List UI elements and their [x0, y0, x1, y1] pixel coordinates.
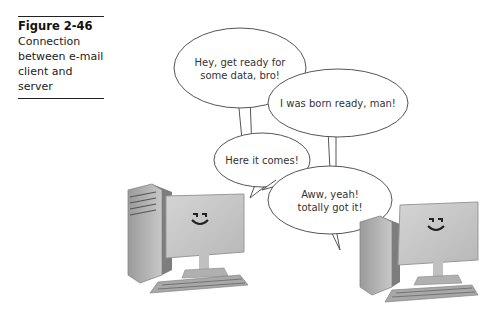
bubble-3-text: Here it comes! [202, 154, 322, 167]
bubble-4-text: Aww, yeah! totally got it! [270, 188, 390, 214]
bubble-2-text: I was born ready, man! [278, 97, 398, 110]
bubble-2-line-1: I was born ready, man! [278, 97, 398, 110]
bubble-4-line-2: totally got it! [270, 201, 390, 214]
bubble-1-text: Hey, get ready for some data, bro! [180, 56, 300, 82]
bubble-1-line-1: Hey, get ready for [180, 56, 300, 69]
bubble-3-line-1: Here it comes! [202, 154, 322, 167]
bubble-4-line-1: Aww, yeah! [270, 188, 390, 201]
client-computer [128, 184, 248, 293]
server-computer [360, 202, 478, 302]
bubble-1-line-2: some data, bro! [180, 69, 300, 82]
